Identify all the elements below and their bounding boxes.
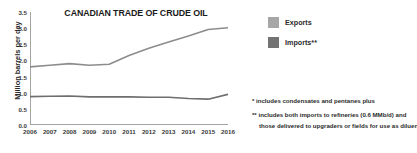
x-tick-label: 2013 — [162, 128, 176, 135]
footnote-line: ** includes both imports to refineries (… — [252, 110, 415, 119]
x-tick-label: 2008 — [63, 128, 77, 135]
legend-label: Exports — [285, 18, 312, 27]
chart-footnotes: * includes condensates and pentanes plus… — [252, 96, 415, 134]
x-tick-label: 2011 — [122, 128, 135, 135]
footnote-line: those delivered to upgraders or fields f… — [252, 121, 415, 130]
x-tick-label: 2012 — [142, 128, 156, 135]
chart-panel: CANADIAN TRADE OF CRUDE OIL Million barr… — [0, 0, 232, 153]
chart-figure: CANADIAN TRADE OF CRUDE OIL Million barr… — [0, 0, 417, 153]
x-tick-label: 2015 — [201, 128, 215, 135]
plot-area — [30, 12, 228, 125]
y-tick-label: 0.5 — [18, 105, 30, 112]
legend-label: Imports** — [285, 38, 317, 47]
x-tick-label: 2009 — [83, 128, 97, 135]
chart-legend: ExportsImports** — [268, 17, 368, 57]
x-tick-label: 2010 — [102, 128, 116, 135]
y-tick-label: 1.0 — [18, 89, 30, 96]
legend-item[interactable]: Exports — [268, 17, 368, 28]
plot-wrapper: 0.00.51.01.52.02.53.03.5 200620072008200… — [14, 12, 228, 138]
x-tick-label: 2007 — [43, 128, 57, 135]
y-tick-label: 3.5 — [18, 9, 30, 16]
legend-swatch-icon — [268, 17, 279, 28]
x-tick-label: 2006 — [23, 128, 37, 135]
y-tick-label: 1.5 — [18, 73, 30, 80]
y-tick-label: 3.0 — [18, 25, 30, 32]
legend-swatch-icon — [268, 37, 279, 48]
footnote-line: * includes condensates and pentanes plus — [252, 96, 415, 105]
x-tick-label: 2016 — [221, 128, 235, 135]
x-tick-label: 2014 — [182, 128, 196, 135]
chart-svg — [30, 12, 228, 125]
legend-item[interactable]: Imports** — [268, 37, 368, 48]
y-tick-label: 2.5 — [18, 41, 30, 48]
y-tick-label: 2.0 — [18, 57, 30, 64]
